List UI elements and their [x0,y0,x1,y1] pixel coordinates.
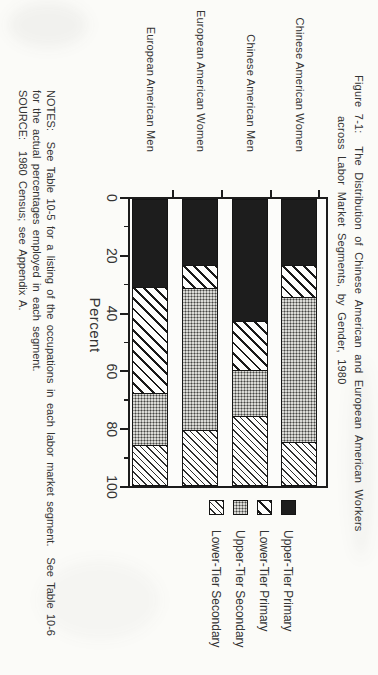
category-tick-0 [318,190,320,197]
major-tick-100 [120,486,128,488]
major-tick-60 [120,370,128,372]
minor-tick-50 [124,342,128,344]
segment-lower-tier-secondary [233,416,267,485]
tick-label-20: 20 [104,234,120,278]
tick-label-80: 80 [104,407,120,451]
plot-area [128,197,328,488]
category-tick-1 [270,190,272,197]
category-label-european-american-men: European American Men [145,2,157,152]
bar-chinese-american-men [232,199,268,486]
bar-european-american-men [132,199,168,486]
category-tick-2 [221,190,223,197]
figure-title-line1: Figure 7-1: The Distribution of Chinese … [353,75,365,532]
notes-line1: NOTES: See Table 10-5 for a listing of t… [45,90,57,636]
segment-upper-tier-secondary [233,370,267,416]
legend-label-lower-tier-primary: Lower-Tier Primary [257,530,271,632]
segment-lower-tier-primary [133,287,167,392]
tick-label-100: 100 [104,465,120,509]
notes-line2: for the actual percentages employed in e… [31,90,43,372]
scanned-page: Figure 7-1: The Distribution of Chinese … [0,0,378,675]
tick-label-40: 40 [104,292,120,336]
source-line: SOURCE: 1980 Census; see Appendix A. [17,90,29,310]
minor-tick-30 [124,284,128,286]
legend-swatch-diagonal-hatch-coarse [257,500,272,515]
x-axis-title: Percent [87,275,104,375]
segment-upper-tier-primary [233,200,267,321]
legend-swatch-solid-black [281,500,296,515]
segment-lower-tier-primary [233,321,267,370]
segment-lower-tier-secondary [282,442,316,485]
figure-title-line2: across Labor Market Segments, by Gender,… [336,116,348,385]
bar-european-american-women [182,199,218,486]
major-tick-40 [120,313,128,315]
legend-label-upper-tier-primary: Upper-Tier Primary [281,530,295,632]
tick-label-0: 0 [104,176,120,220]
legend-swatch-diagonal-hatch-fine [209,500,224,515]
segment-lower-tier-primary [183,265,217,289]
legend-label-lower-tier-secondary: Lower-Tier Secondary [209,530,223,648]
segment-upper-tier-secondary [282,297,316,442]
segment-lower-tier-secondary [133,445,167,485]
major-tick-20 [120,255,128,257]
segment-upper-tier-primary [133,200,167,287]
segment-lower-tier-primary [282,265,316,297]
minor-tick-10 [124,226,128,228]
category-label-chinese-american-women: Chinese American Women [294,2,306,152]
bar-chinese-american-women [281,199,317,486]
category-label-european-american-women: European American Women [195,2,207,152]
segment-upper-tier-primary [183,200,217,265]
minor-tick-90 [124,457,128,459]
category-tick-3 [172,190,174,197]
segment-upper-tier-secondary [183,288,217,430]
major-tick-0 [120,197,128,199]
minor-tick-70 [124,399,128,401]
major-tick-80 [120,428,128,430]
category-label-chinese-american-men: Chinese American Men [245,2,257,152]
legend-label-upper-tier-secondary: Upper-Tier Secondary [233,530,247,648]
segment-upper-tier-primary [282,200,316,265]
legend-swatch-dot-screen [233,500,248,515]
figure-canvas: Figure 7-1: The Distribution of Chinese … [0,0,378,675]
tick-label-60: 60 [104,349,120,393]
segment-lower-tier-secondary [183,430,217,485]
segment-upper-tier-secondary [133,393,167,445]
